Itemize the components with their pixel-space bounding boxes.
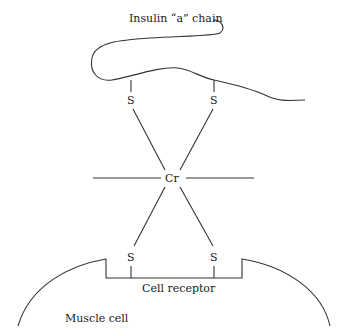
cr-s4-bond — [180, 187, 213, 246]
chromium-atom: Cr — [165, 172, 179, 185]
cr-s3-bond — [134, 187, 165, 246]
cell-receptor-label: Cell receptor — [142, 282, 216, 295]
insulin-chain-label: Insulin “a” chain — [129, 12, 222, 25]
chromium-insulin-binding-diagram: Insulin “a” chain S S Cr S S Cell recept… — [0, 0, 339, 331]
sulfur-top-right: S — [210, 94, 218, 107]
sulfur-bottom-right: S — [210, 251, 218, 264]
muscle-cell-label: Muscle cell — [65, 312, 129, 325]
s1-cr-bond — [133, 109, 165, 170]
s2-cr-bond — [180, 109, 213, 170]
sulfur-top-left: S — [127, 94, 135, 107]
sulfur-bottom-left: S — [127, 251, 135, 264]
insulin-chain-curve — [91, 20, 305, 100]
